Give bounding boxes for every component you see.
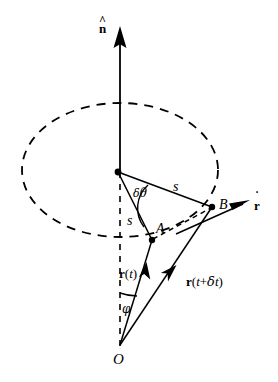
angle-phi-label: φ — [122, 303, 130, 315]
plus-operator: + — [200, 274, 207, 289]
radius-lower-label: s — [127, 214, 132, 228]
point-a-label: A — [156, 222, 165, 236]
radius-upper-label: s — [173, 180, 178, 194]
vector-r-t-line — [120, 240, 152, 345]
rotation-vector-diagram: ^ n δθ s s A B ˙ r r(t) r(t+δt) φ O — [0, 0, 278, 382]
hat-accent-icon: ^ — [99, 14, 106, 26]
angle-delta-theta-label: δθ — [133, 184, 147, 200]
vector-r-t-label: r(t) — [119, 267, 137, 280]
rotation-centre-point — [115, 169, 122, 176]
point-b-marker — [209, 204, 215, 210]
vector-r-dot-arrowhead — [228, 200, 251, 213]
n-hat-glyph: ^ n — [99, 22, 106, 35]
delta-symbol: δ — [133, 187, 140, 200]
point-a-marker — [149, 237, 155, 243]
vector-r-dot-label: ˙ r — [254, 199, 260, 212]
axis-unit-vector-label: ^ n — [99, 22, 106, 35]
r-dot-glyph: ˙ r — [254, 199, 260, 212]
dot-accent-icon: ˙ — [255, 190, 259, 202]
vector-r-t-plus-dt-label: r(t+δt) — [186, 275, 223, 288]
point-b-label: B — [219, 198, 228, 212]
origin-label: O — [113, 352, 124, 367]
theta-symbol: θ — [140, 186, 147, 200]
paren2-close: ) — [219, 274, 223, 289]
paren-close: ) — [133, 266, 137, 281]
delta-symbol-2: δ — [207, 274, 215, 289]
